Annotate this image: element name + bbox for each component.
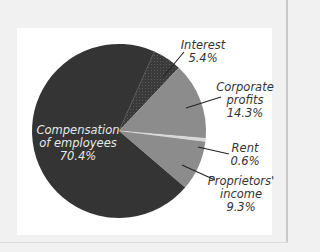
label-value: 9.3%	[201, 201, 281, 214]
label-rent: Rent 0.6%	[220, 142, 270, 168]
label-proprietors-income: Proprietors' income 9.3%	[201, 175, 281, 214]
label-corporate-profits: Corporate profits 14.3%	[210, 81, 280, 120]
label-interest: Interest 5.4%	[168, 39, 238, 65]
label-value: 14.3%	[210, 107, 280, 120]
label-value: 70.4%	[28, 150, 128, 163]
label-value: 5.4%	[168, 52, 238, 65]
label-value: 0.6%	[220, 155, 270, 168]
label-compensation: Compensation of employees 70.4%	[28, 124, 128, 163]
